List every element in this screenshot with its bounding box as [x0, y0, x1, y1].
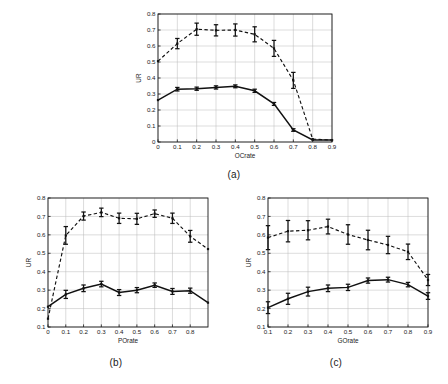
svg-text:0.6: 0.6 — [257, 231, 266, 238]
panel-b: 00.10.20.30.40.50.60.70.80.10.20.30.40.5… — [18, 190, 214, 355]
svg-text:0.2: 0.2 — [37, 305, 46, 312]
svg-text:0.9: 0.9 — [328, 143, 337, 150]
svg-text:0.1: 0.1 — [147, 122, 156, 129]
svg-text:0.5: 0.5 — [250, 143, 259, 150]
svg-text:GOrate: GOrate — [338, 337, 359, 344]
svg-text:0.8: 0.8 — [257, 194, 266, 201]
svg-text:UR: UR — [25, 258, 32, 268]
panel-c: 0.10.20.30.40.50.60.70.80.90.10.20.30.40… — [238, 190, 434, 355]
panel-a-plot: 00.10.20.30.40.50.60.70.80.900.10.20.30.… — [128, 6, 340, 168]
svg-text:0.2: 0.2 — [257, 305, 266, 312]
panel-c-plot: 0.10.20.30.40.50.60.70.80.90.10.20.30.40… — [238, 190, 434, 355]
svg-text:0.6: 0.6 — [37, 231, 46, 238]
svg-text:0.3: 0.3 — [257, 286, 266, 293]
svg-text:0: 0 — [156, 143, 160, 150]
svg-text:0.8: 0.8 — [186, 328, 195, 335]
svg-text:POrate: POrate — [118, 337, 139, 344]
svg-text:0.3: 0.3 — [147, 90, 156, 97]
svg-text:0.3: 0.3 — [97, 328, 106, 335]
svg-text:0.9: 0.9 — [424, 328, 433, 335]
svg-text:0.2: 0.2 — [284, 328, 293, 335]
panel-a: 00.10.20.30.40.50.60.70.80.900.10.20.30.… — [128, 6, 340, 168]
svg-text:0.5: 0.5 — [37, 249, 46, 256]
svg-text:0.8: 0.8 — [308, 143, 317, 150]
svg-text:UR: UR — [135, 73, 142, 83]
svg-text:0.6: 0.6 — [270, 143, 279, 150]
svg-text:0.4: 0.4 — [37, 268, 46, 275]
svg-text:0.7: 0.7 — [289, 143, 298, 150]
svg-text:0.5: 0.5 — [133, 328, 142, 335]
svg-text:0.2: 0.2 — [192, 143, 201, 150]
svg-text:0.7: 0.7 — [37, 213, 46, 220]
svg-text:OCrate: OCrate — [235, 152, 256, 159]
svg-text:UR: UR — [245, 258, 252, 268]
svg-text:0.7: 0.7 — [257, 213, 266, 220]
svg-text:0.1: 0.1 — [257, 323, 266, 330]
figure-root: 00.10.20.30.40.50.60.70.80.900.10.20.30.… — [0, 0, 448, 384]
svg-text:0.4: 0.4 — [231, 143, 240, 150]
svg-text:0.2: 0.2 — [79, 328, 88, 335]
svg-text:0: 0 — [152, 138, 156, 145]
panel-b-plot: 00.10.20.30.40.50.60.70.80.10.20.30.40.5… — [18, 190, 214, 355]
svg-text:0.7: 0.7 — [384, 328, 393, 335]
svg-text:0.1: 0.1 — [173, 143, 182, 150]
svg-text:0.8: 0.8 — [147, 10, 156, 17]
svg-text:0.6: 0.6 — [364, 328, 373, 335]
svg-text:0.4: 0.4 — [257, 268, 266, 275]
svg-text:0.4: 0.4 — [147, 74, 156, 81]
svg-text:0.8: 0.8 — [37, 194, 46, 201]
svg-text:0.4: 0.4 — [115, 328, 124, 335]
svg-text:0.5: 0.5 — [344, 328, 353, 335]
svg-text:0.1: 0.1 — [37, 323, 46, 330]
svg-text:0.7: 0.7 — [168, 328, 177, 335]
svg-text:0.1: 0.1 — [61, 328, 70, 335]
svg-text:0.3: 0.3 — [37, 286, 46, 293]
panel-a-caption: (a) — [128, 169, 340, 180]
svg-text:0.5: 0.5 — [257, 249, 266, 256]
svg-text:0.3: 0.3 — [212, 143, 221, 150]
svg-text:0.5: 0.5 — [147, 58, 156, 65]
svg-text:0.4: 0.4 — [324, 328, 333, 335]
panel-c-caption: (c) — [238, 357, 434, 368]
svg-text:0.2: 0.2 — [147, 106, 156, 113]
panel-b-caption: (b) — [18, 357, 214, 368]
svg-text:0: 0 — [46, 328, 50, 335]
svg-text:0.8: 0.8 — [404, 328, 413, 335]
svg-text:0.7: 0.7 — [147, 26, 156, 33]
svg-text:0.3: 0.3 — [304, 328, 313, 335]
svg-text:0.6: 0.6 — [150, 328, 159, 335]
svg-text:0.6: 0.6 — [147, 42, 156, 49]
